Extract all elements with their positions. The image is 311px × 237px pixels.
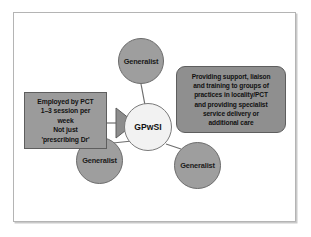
node-service-provision-box[interactable]: Providing support, liaison and training … xyxy=(176,66,286,133)
node-generalist-top[interactable]: Generalist xyxy=(118,38,164,84)
node-generalist-bottom-right-label: Generalist xyxy=(180,161,215,170)
node-generalist-bottom-left-label: Generalist xyxy=(82,156,117,165)
connector-top xyxy=(141,84,145,105)
diagram-frame: Generalist Generalist Generalist Employe… xyxy=(13,12,296,222)
node-employment-details-box[interactable]: Employed by PCT 1–3 session per week Not… xyxy=(24,92,107,149)
connector-bottom-right xyxy=(166,144,181,149)
node-gpwsi-center[interactable]: GPwSI xyxy=(124,103,172,151)
node-service-provision-label: Providing support, liaison and training … xyxy=(192,72,271,127)
node-generalist-top-label: Generalist xyxy=(124,57,159,66)
node-generalist-bottom-right[interactable]: Generalist xyxy=(174,142,221,189)
node-gpwsi-label: GPwSI xyxy=(134,122,162,132)
node-employment-details-label: Employed by PCT 1–3 session per week Not… xyxy=(37,97,93,145)
diagram-canvas: Generalist Generalist Generalist Employe… xyxy=(14,13,295,221)
